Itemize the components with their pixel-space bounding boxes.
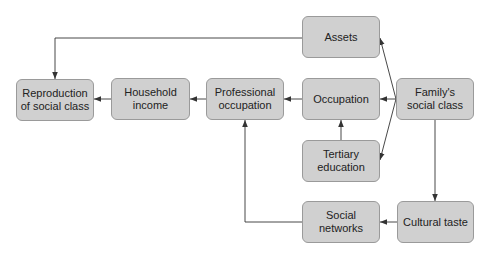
edge-social_networks-to-professional: [245, 120, 302, 222]
node-familys-social-class: Family's social class: [396, 78, 474, 120]
node-cultural-taste: Cultural taste: [397, 201, 474, 243]
node-label: Occupation: [313, 93, 369, 106]
node-label: Family's social class: [400, 86, 470, 112]
social-class-flow-diagram: Reproduction of social class Household i…: [0, 0, 489, 254]
node-label: Tertiary education: [306, 148, 376, 174]
edge-family-to-tertiary: [380, 99, 396, 160]
node-reproduction-of-social-class: Reproduction of social class: [16, 79, 94, 121]
node-tertiary-education: Tertiary education: [302, 140, 380, 182]
node-label: Social networks: [306, 209, 376, 235]
edge-family-to-assets: [380, 38, 396, 99]
node-household-income: Household income: [111, 78, 190, 120]
node-label: Assets: [324, 31, 357, 44]
node-label: Cultural taste: [403, 216, 468, 229]
edge-assets-to-reproduction: [55, 38, 302, 79]
node-label: Household income: [115, 86, 186, 112]
node-occupation: Occupation: [302, 78, 380, 120]
node-professional-occupation: Professional occupation: [206, 78, 284, 120]
node-social-networks: Social networks: [302, 201, 380, 243]
node-label: Professional occupation: [210, 86, 280, 112]
node-label: Reproduction of social class: [20, 87, 90, 113]
node-assets: Assets: [302, 16, 380, 58]
